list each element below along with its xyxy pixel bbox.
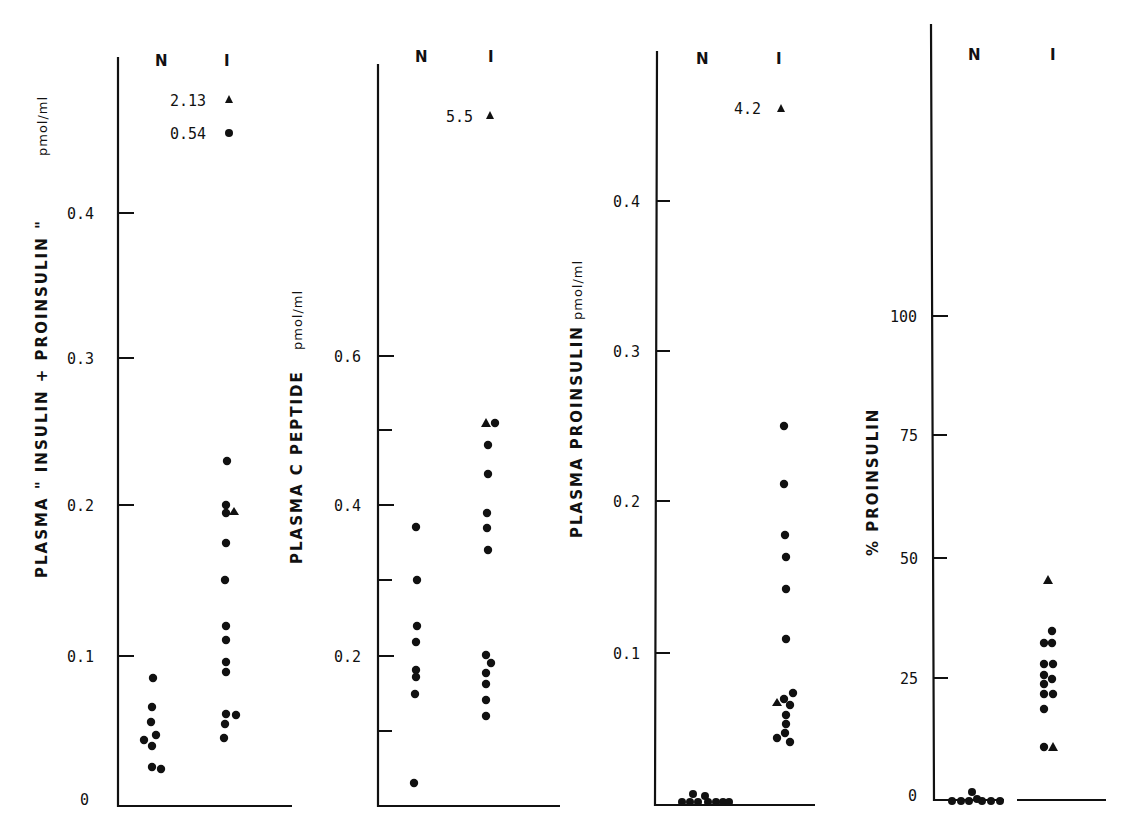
y-tick-label: 0.6 bbox=[334, 348, 361, 366]
group-label-i: I bbox=[224, 52, 230, 70]
group-label-n: N bbox=[968, 46, 981, 64]
dot-marker bbox=[225, 129, 233, 137]
group-label-i: I bbox=[488, 48, 494, 66]
y-axis-title: PLASMA C PEPTIDE pmol/ml bbox=[288, 290, 306, 564]
off-scale-label: 0.54 bbox=[170, 125, 206, 143]
series-n bbox=[948, 788, 1004, 805]
panel-insulin-proinsulin: 0 0.1 0.2 0.3 0.4 N I PLASMA " INSULIN +… bbox=[33, 52, 292, 809]
axis-unit-text: pmol/ml bbox=[290, 290, 305, 350]
panel-percent-proinsulin: 0 25 50 75 100 N I % PROINSULIN bbox=[864, 24, 1106, 805]
series-i bbox=[772, 422, 797, 746]
y-tick-label: 0 bbox=[80, 791, 89, 809]
y-tick-label: 0.2 bbox=[67, 497, 94, 515]
group-label-i: I bbox=[776, 50, 782, 68]
group-label-n: N bbox=[415, 48, 428, 66]
series-i bbox=[220, 457, 240, 742]
y-tick-label: 0.4 bbox=[334, 497, 361, 515]
off-scale-label: 5.5 bbox=[446, 108, 473, 126]
figure-canvas: 0 0.1 0.2 0.3 0.4 N I PLASMA " INSULIN +… bbox=[0, 0, 1128, 831]
axis-title-text: PLASMA C PEPTIDE bbox=[288, 370, 306, 564]
y-tick-label: 0.4 bbox=[613, 193, 640, 211]
y-tick-label: 0.4 bbox=[67, 205, 94, 223]
axis-unit-text: pmol/ml bbox=[570, 260, 585, 320]
y-tick-label: 0.2 bbox=[613, 493, 640, 511]
group-label-n: N bbox=[155, 52, 168, 70]
y-tick-label: 0.2 bbox=[334, 648, 361, 666]
series-n bbox=[410, 523, 421, 787]
y-tick-label: 25 bbox=[900, 670, 918, 688]
y-tick-label: 0.1 bbox=[613, 645, 640, 663]
series-i bbox=[481, 418, 499, 720]
off-scale-label: 4.2 bbox=[734, 100, 761, 118]
group-label-n: N bbox=[696, 50, 709, 68]
axis-title-text: % PROINSULIN bbox=[864, 408, 882, 556]
triangle-marker bbox=[225, 95, 233, 103]
y-tick-label: 100 bbox=[890, 308, 917, 326]
axes-panel-1 bbox=[118, 57, 292, 806]
axes-panel-4 bbox=[931, 24, 1004, 800]
y-axis-title: PLASMA " INSULIN + PROINSULIN " pmol/ml bbox=[33, 96, 51, 578]
y-tick-label: 0.1 bbox=[67, 648, 94, 666]
y-tick-label: 0 bbox=[908, 787, 917, 805]
panel-proinsulin: 0.1 0.2 0.3 0.4 N I PLASMA PROINSULIN pm… bbox=[568, 50, 815, 806]
group-label-i: I bbox=[1050, 46, 1056, 64]
y-tick-label: 0.3 bbox=[613, 343, 640, 361]
triangle-marker bbox=[486, 111, 494, 119]
y-tick-label: 75 bbox=[900, 427, 918, 445]
axis-unit-text: pmol/ml bbox=[35, 96, 50, 156]
triangle-marker bbox=[777, 104, 785, 112]
axis-title-text: PLASMA PROINSULIN bbox=[568, 325, 586, 538]
y-tick-label: 50 bbox=[900, 550, 918, 568]
axis-title-text: PLASMA " INSULIN + PROINSULIN " bbox=[33, 219, 51, 578]
series-n bbox=[678, 790, 733, 806]
series-n bbox=[140, 674, 165, 773]
off-scale-label: 2.13 bbox=[170, 92, 206, 110]
axes-panel-2 bbox=[378, 64, 560, 806]
y-tick-label: 0.3 bbox=[67, 350, 94, 368]
series-i bbox=[1040, 575, 1058, 751]
y-axis-title: % PROINSULIN bbox=[864, 408, 882, 556]
panel-c-peptide: 0.2 0.4 0.6 N I PLASMA C PEPTIDE pmol/ml… bbox=[288, 48, 560, 806]
y-axis-title: PLASMA PROINSULIN pmol/ml bbox=[568, 260, 586, 538]
